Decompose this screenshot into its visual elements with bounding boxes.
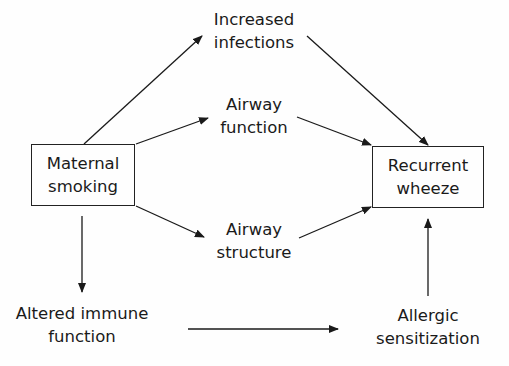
node-label: Altered immune xyxy=(4,302,160,325)
node-altered-immune-function: Altered immune function xyxy=(4,302,160,348)
arrow-airway-structure-to-wheeze xyxy=(299,207,371,238)
node-allergic-sensitization: Allergic sensitization xyxy=(366,304,490,350)
node-label: infections xyxy=(194,31,314,54)
node-label: structure xyxy=(204,241,304,264)
node-label: wheeze xyxy=(373,177,483,200)
arrow-smoking-to-airway-structure xyxy=(136,206,204,237)
node-label: Airway xyxy=(204,218,304,241)
node-recurrent-wheeze: Recurrent wheeze xyxy=(372,146,484,208)
arrow-airway-function-to-wheeze xyxy=(297,117,371,145)
node-airway-function: Airway function xyxy=(204,93,304,139)
node-label: Allergic xyxy=(366,304,490,327)
node-label: smoking xyxy=(32,175,134,198)
arrow-smoking-to-infections xyxy=(84,36,202,144)
node-increased-infections: Increased infections xyxy=(194,8,314,54)
node-label: Recurrent xyxy=(373,154,483,177)
arrow-infections-to-wheeze xyxy=(307,36,428,145)
node-label: sensitization xyxy=(366,327,490,350)
node-label: Increased xyxy=(194,8,314,31)
node-label: function xyxy=(204,116,304,139)
node-airway-structure: Airway structure xyxy=(204,218,304,264)
node-label: Airway xyxy=(204,93,304,116)
arrow-smoking-to-airway-function xyxy=(136,118,208,144)
node-label: Maternal xyxy=(32,152,134,175)
node-label: function xyxy=(4,325,160,348)
node-maternal-smoking: Maternal smoking xyxy=(31,144,135,206)
